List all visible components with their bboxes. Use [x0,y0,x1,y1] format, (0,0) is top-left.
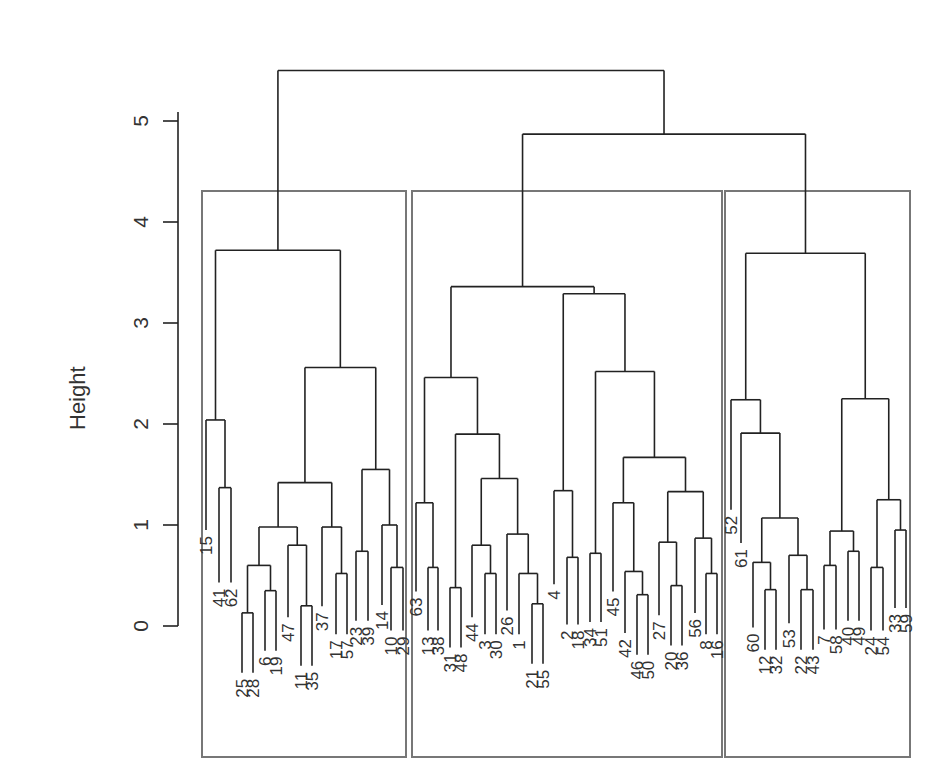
leaf-label: 53 [780,629,799,648]
leaf-label: 44 [463,623,482,642]
leaf-label: 14 [373,611,392,630]
y-tick-label: 0 [129,620,152,632]
leaf-label: 59 [897,614,916,633]
leaf-label: 4 [545,590,564,599]
leaf-label: 27 [650,621,669,640]
leaf-label: 29 [394,637,413,656]
leaf-label: 37 [313,612,332,631]
leaf-label: 60 [744,634,763,653]
leaf-label: 55 [534,670,553,689]
y-tick-label: 1 [129,519,152,531]
dendrogram-tree [206,71,906,673]
leaf-label: 61 [732,549,751,568]
leaf-label: 48 [452,654,471,673]
leaf-label: 54 [874,637,893,656]
leaf-label: 38 [429,637,448,656]
dendrogram-chart: 012345 154162252861947113537175723391410… [0,0,950,771]
leaf-label: 47 [279,623,298,642]
leaf-label: 16 [708,640,727,659]
leaf-label: 52 [722,516,741,535]
y-tick-label: 2 [129,418,152,430]
leaf-label: 15 [197,536,216,555]
leaf-label: 28 [244,679,263,698]
y-tick-label: 4 [129,216,152,228]
leaf-label: 35 [303,672,322,691]
leaf-label: 62 [222,588,241,607]
y-axis: 012345 [129,112,179,632]
leaf-label: 50 [639,661,658,680]
y-tick-label: 3 [129,317,152,329]
leaf-labels: 1541622528619471135371757233914102963133… [197,516,916,698]
leaf-label: 42 [616,639,635,658]
y-axis-title: Height [58,370,98,430]
leaf-label: 43 [804,656,823,675]
leaf-label: 56 [686,619,705,638]
leaf-label: 26 [498,616,517,635]
leaf-label: 32 [767,656,786,675]
leaf-label: 51 [592,628,611,647]
leaf-label: 19 [267,657,286,676]
leaf-label: 1 [510,640,529,649]
leaf-label: 63 [407,598,426,617]
leaf-label: 30 [487,640,506,659]
leaf-label: 45 [604,598,623,617]
y-tick-label: 5 [129,115,152,127]
leaf-label: 36 [673,652,692,671]
